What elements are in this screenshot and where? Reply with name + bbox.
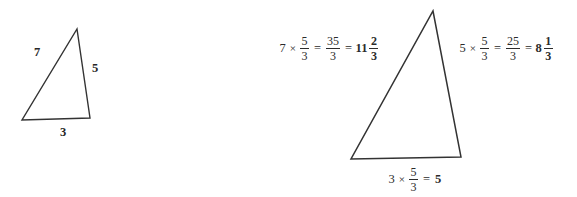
bottom-expr-scale-denominator: 3	[409, 180, 417, 193]
left-expr-equals-2: =	[342, 42, 356, 55]
original-triangle-shape	[22, 29, 90, 120]
left-side-expression: 7 × 5 3 = 35 3 = 11 2 3	[278, 35, 380, 62]
left-expr-scale-denominator: 3	[300, 49, 308, 62]
right-expr-times-symbol: ×	[467, 43, 478, 54]
right-expr-result-fraction: 1 3	[542, 35, 554, 62]
triangles-svg	[0, 0, 577, 197]
left-expr-improper-numerator: 35	[326, 35, 340, 48]
right-expr-result: 8 1 3	[536, 35, 555, 62]
original-triangle-left-label: 7	[34, 46, 40, 59]
right-expr-improper-fraction: 25 3	[505, 35, 522, 62]
right-expr-factor: 5	[458, 42, 467, 55]
original-triangle-bottom-label: 3	[60, 126, 66, 139]
left-expr-scale-fraction: 5 3	[298, 35, 310, 62]
left-expr-result-fraction: 2 3	[368, 35, 380, 62]
left-expr-result-whole: 11	[356, 42, 368, 55]
bottom-expr-scale-fraction: 5 3	[407, 166, 419, 193]
bottom-expr-equals: =	[419, 173, 433, 186]
left-expr-scale-numerator: 5	[300, 35, 308, 48]
left-expr-result-denominator: 3	[370, 49, 378, 62]
bottom-side-expression: 3 × 5 3 = 5	[387, 166, 443, 193]
right-expr-improper-numerator: 25	[506, 35, 520, 48]
left-expr-result-numerator: 2	[370, 35, 378, 48]
right-expr-result-numerator: 1	[544, 35, 552, 48]
left-expr-improper-fraction: 35 3	[325, 35, 342, 62]
left-expr-times-symbol: ×	[287, 43, 298, 54]
scaled-triangle-shape	[351, 11, 461, 159]
bottom-expr-result: 5	[434, 173, 443, 186]
right-side-expression: 5 × 5 3 = 25 3 = 8 1 3	[458, 35, 554, 62]
bottom-expr-factor: 3	[387, 173, 396, 186]
left-expr-improper-denominator: 3	[329, 49, 337, 62]
left-expr-equals-1: =	[310, 42, 324, 55]
right-expr-result-denominator: 3	[544, 49, 552, 62]
right-expr-scale-numerator: 5	[480, 35, 488, 48]
right-expr-scale-fraction: 5 3	[478, 35, 490, 62]
right-expr-result-whole: 8	[536, 42, 543, 55]
original-triangle-right-label: 5	[92, 62, 98, 75]
right-expr-equals-2: =	[522, 42, 536, 55]
left-expr-factor: 7	[278, 42, 287, 55]
bottom-expr-scale-numerator: 5	[409, 166, 417, 179]
right-expr-improper-denominator: 3	[509, 49, 517, 62]
diagram-canvas: 7 5 3 7 × 5 3 = 35 3 = 11 2 3 5 ×	[0, 0, 577, 197]
right-expr-equals-1: =	[490, 42, 504, 55]
bottom-expr-times-symbol: ×	[396, 174, 407, 185]
right-expr-scale-denominator: 3	[480, 49, 488, 62]
left-expr-result: 11 2 3	[356, 35, 380, 62]
